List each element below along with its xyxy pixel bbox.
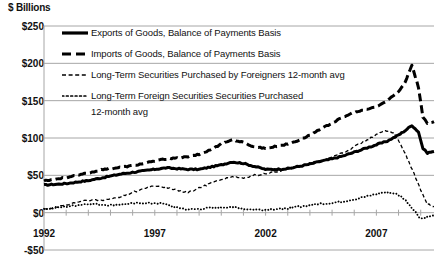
legend-label-exports: Exports of Goods, Balance of Payments Ba… bbox=[91, 27, 281, 38]
legend-item[interactable]: Imports of Goods, Balance of Payments Ba… bbox=[62, 43, 345, 64]
x-axis-tick-label: 2002 bbox=[254, 228, 276, 239]
x-axis-tick-label: 1997 bbox=[144, 228, 166, 239]
x-axis-tick-label: 1992 bbox=[33, 228, 55, 239]
chart-legend: Exports of Goods, Balance of Payments Ba… bbox=[62, 22, 345, 117]
legend-swatch-imports bbox=[62, 48, 88, 60]
series-line bbox=[44, 192, 434, 219]
legend-item[interactable]: Long-Term Foreign Securities Securities … bbox=[62, 85, 345, 106]
legend-item[interactable]: Long-Term Securities Purchased by Foreig… bbox=[62, 64, 345, 85]
legend-swatch-us-purchases bbox=[62, 90, 88, 102]
legend-swatch-foreign-purchases bbox=[62, 69, 88, 81]
legend-label-us-purchases: Long-Term Foreign Securities Securities … bbox=[91, 90, 303, 101]
legend-label-foreign-purchases: Long-Term Securities Purchased by Foreig… bbox=[91, 69, 345, 80]
legend-item[interactable]: Exports of Goods, Balance of Payments Ba… bbox=[62, 22, 345, 43]
x-axis-tick-label: 2007 bbox=[365, 228, 387, 239]
legend-swatch-exports bbox=[62, 27, 88, 39]
chart-container: $ Billions $250$200$150$100$50$0-$50 199… bbox=[0, 0, 444, 274]
legend-label-imports: Imports of Goods, Balance of Payments Ba… bbox=[91, 48, 281, 59]
legend-label-continuation: 12-month avg bbox=[91, 106, 345, 117]
